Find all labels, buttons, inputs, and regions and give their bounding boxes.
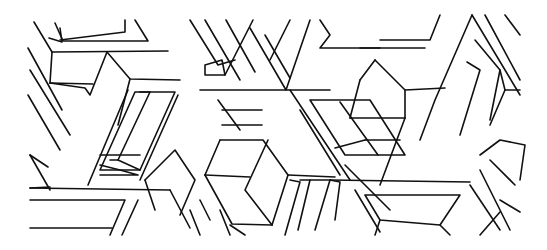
geometric-pattern-drawing — [0, 0, 547, 250]
bottom-left-bars — [30, 150, 195, 235]
pattern-canvas — [0, 0, 547, 250]
center-top-chevrons — [190, 20, 380, 90]
top-left-frame — [34, 20, 180, 125]
left-diagonals — [28, 48, 70, 190]
left-recess-box — [88, 90, 178, 185]
right-tall-frame — [420, 15, 520, 140]
center-cube — [205, 100, 335, 225]
